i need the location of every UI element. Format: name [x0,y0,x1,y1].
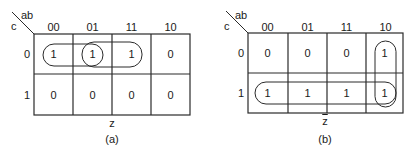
col-header-01: 01 [73,21,112,33]
cell-r0-c01: 0 [288,33,327,73]
cell-r0-c11: 1 [112,34,151,74]
col-header-10: 10 [151,21,190,33]
col-var-label: ab [235,9,247,21]
col-header-11: 11 [112,21,151,33]
row-var-label: c [11,20,17,32]
cell-r0-c00: 0 [248,33,287,73]
cell-r1-c10: 0 [151,75,190,115]
cell-r0-c11: 0 [327,33,366,73]
cell-r0-c10: 0 [151,34,190,74]
cell-r0-c01: 1 [73,34,112,74]
function-label-complement: z [315,115,335,127]
row-header-1: 1 [21,89,33,101]
cell-r1-c01: 1 [288,73,327,113]
function-label: z [102,117,122,129]
caption: (a) [97,133,127,145]
row-header-0: 0 [21,48,33,60]
cell-r1-c01: 0 [73,75,112,115]
row-header-1: 1 [235,87,247,99]
cell-r1-c10: 1 [365,73,404,113]
col-header-11: 11 [327,21,366,33]
cell-r0-c00: 1 [34,34,73,74]
col-header-00: 00 [34,21,73,33]
row-header-0: 0 [235,47,247,59]
cell-r0-c10: 1 [365,33,404,73]
kmap-b: ab c 00 01 11 10 0 1 0 0 0 1 1 1 1 1 z (… [207,0,414,154]
cell-r1-c11: 1 [327,73,366,113]
col-header-01: 01 [288,21,327,33]
cell-r1-c00: 1 [248,73,287,113]
cell-r1-c00: 0 [34,75,73,115]
row-var-label: c [224,20,230,32]
col-var-label: ab [21,9,33,21]
caption: (b) [310,133,340,145]
cell-r1-c11: 0 [112,75,151,115]
col-header-00: 00 [248,21,287,33]
kmap-a: ab c 00 01 11 10 0 1 1 1 1 0 0 0 0 0 z (… [0,0,207,154]
col-header-10: 10 [366,21,405,33]
